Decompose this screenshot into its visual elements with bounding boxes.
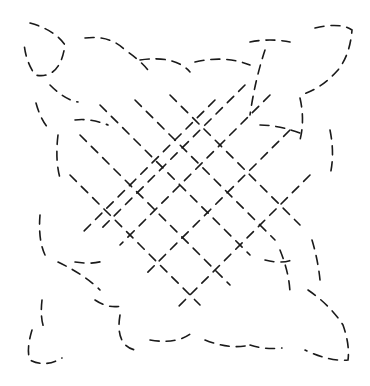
- knot-inner-lattice: [70, 85, 310, 310]
- knot-corner-top-right: [250, 25, 352, 95]
- knot-corner-top-left: [24, 23, 78, 128]
- knot-corner-bottom-left: [28, 300, 62, 364]
- knot-corner-bottom-right: [250, 290, 348, 360]
- knot-outer-loops: [40, 38, 333, 351]
- celtic-knot-drawing: [0, 0, 370, 386]
